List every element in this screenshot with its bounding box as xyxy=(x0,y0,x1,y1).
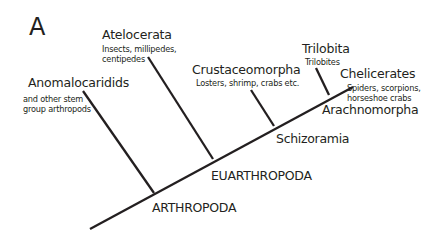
branch-line-trilobita xyxy=(316,68,329,95)
clade-label-euarthropoda: EUARTHROPODA xyxy=(211,170,312,183)
taxon-desc-anomalocaridids-2: group arthropods xyxy=(23,104,91,114)
panel-label: A xyxy=(29,15,45,39)
clade-label-arthropoda: ARTHROPODA xyxy=(152,202,236,215)
taxon-title-trilobita: Trilobita xyxy=(302,43,350,56)
clade-label-arachnomorpha: Arachnomorpha xyxy=(322,104,418,117)
branch-line-anomalocaridids xyxy=(83,91,154,193)
taxon-title-crustaceomorpha: Crustaceomorpha xyxy=(192,64,301,77)
branch-line-crustaceomorpha xyxy=(251,90,274,126)
taxon-title-atelocerata: Atelocerata xyxy=(102,29,172,42)
clade-label-schizoramia: Schizoramia xyxy=(276,133,349,146)
taxon-title-chelicerates: Chelicerates xyxy=(340,68,415,81)
taxon-desc-crustaceomorpha-1: Losters, shrimp, crabs etc. xyxy=(196,78,299,88)
taxon-desc-atelocerata-2: centipedes xyxy=(102,54,145,64)
taxon-desc-anomalocaridids-1: and other stem xyxy=(23,94,83,104)
taxon-desc-trilobita-1: Trilobites xyxy=(305,57,340,67)
taxon-desc-chelicerates-1: Spiders, scorpions, xyxy=(347,83,421,93)
taxon-title-anomalocaridids: Anomalocaridids xyxy=(28,77,129,90)
taxon-desc-atelocerata-1: Insects, millipedes, xyxy=(102,44,177,54)
